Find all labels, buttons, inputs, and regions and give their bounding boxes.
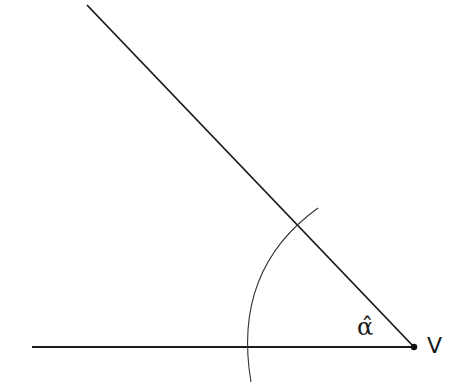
angle-diagram: α̂ V bbox=[0, 0, 470, 390]
vertex-point bbox=[411, 344, 417, 350]
angle-arc bbox=[248, 208, 318, 382]
slanted-ray bbox=[87, 5, 414, 347]
diagram-canvas bbox=[0, 0, 470, 390]
angle-label: α̂ bbox=[357, 313, 373, 341]
vertex-label: V bbox=[427, 333, 442, 358]
